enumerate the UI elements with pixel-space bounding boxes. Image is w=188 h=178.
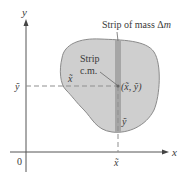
centroid-point <box>116 84 119 87</box>
x-axis-label: x <box>171 146 177 158</box>
origin-label: 0 <box>17 156 22 167</box>
centroid-diagram: y x 0 Strip of mass Δm Strip c.m. (x̃, ỹ… <box>0 0 188 178</box>
x-tilde-axis-label: x̃ <box>113 157 119 168</box>
strip-cm-label-line2: c.m. <box>80 65 97 76</box>
y-axis-arrow-icon <box>24 19 29 26</box>
y-tilde-axis-label: ỹ <box>14 81 20 92</box>
x-tilde-inside-label: x̃ <box>67 73 73 84</box>
strip-cm-label-line1: Strip <box>80 53 99 64</box>
strip-mass-label: Strip of mass Δm <box>102 19 171 30</box>
y-tilde-inside-label: ỹ <box>121 116 127 127</box>
x-axis-arrow-icon <box>162 150 169 155</box>
y-axis-label: y <box>21 6 27 18</box>
centroid-coordinates-label: (x̃, ỹ) <box>121 81 142 93</box>
